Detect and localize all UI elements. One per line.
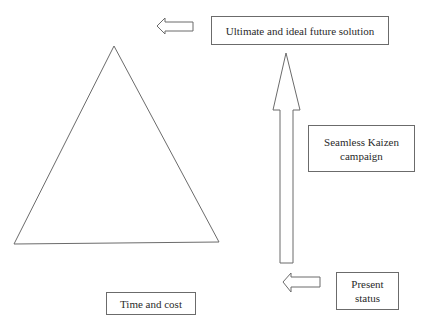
left-arrow-top-icon (157, 18, 193, 34)
left-arrow-bottom-icon (283, 273, 320, 292)
ultimate-solution-label: Ultimate and ideal future solution (226, 24, 374, 38)
present-status-label: Present status (345, 277, 390, 305)
ultimate-solution-box: Ultimate and ideal future solution (211, 16, 389, 45)
triangle-shape (14, 46, 219, 244)
time-and-cost-box: Time and cost (106, 292, 196, 315)
present-status-box: Present status (336, 272, 399, 310)
up-arrow-icon (273, 53, 300, 263)
kaizen-campaign-label: Seamless Kaizen campaign (321, 135, 402, 163)
kaizen-campaign-box: Seamless Kaizen campaign (308, 125, 415, 172)
time-and-cost-label: Time and cost (120, 297, 182, 311)
